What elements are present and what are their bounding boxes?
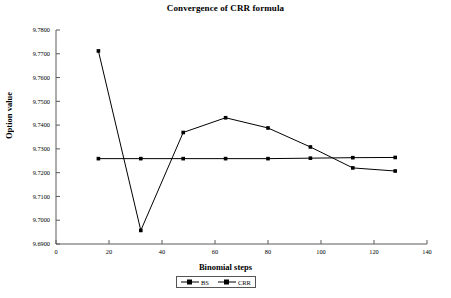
data-point-crr — [224, 116, 228, 120]
data-point-bs — [351, 156, 355, 160]
x-tick-label: 140 — [422, 248, 431, 255]
y-tick-label: 9.7200 — [33, 169, 50, 176]
x-tick-label: 80 — [265, 248, 271, 255]
x-tick-label: 20 — [106, 248, 112, 255]
series-line-crr — [98, 51, 395, 231]
chart-container: Convergence of CRR formula Option value … — [0, 0, 451, 298]
x-axis-title: Binomial steps — [0, 262, 451, 272]
data-point-crr — [309, 145, 313, 149]
x-tick-label: 120 — [369, 248, 378, 255]
y-tick-label: 9.7800 — [33, 26, 50, 33]
y-tick-label: 9.7600 — [33, 74, 50, 81]
y-tick-label: 9.7100 — [33, 193, 50, 200]
data-point-bs — [181, 157, 185, 161]
data-point-crr — [139, 229, 143, 233]
x-tick-label: 0 — [54, 248, 57, 255]
legend-item-bs: BS — [181, 278, 209, 286]
x-tick-label: 40 — [159, 248, 165, 255]
data-point-bs — [139, 157, 143, 161]
legend-line-marker-icon — [218, 278, 236, 286]
y-tick-label: 9.6900 — [33, 240, 50, 247]
data-point-bs — [309, 156, 313, 160]
legend-label-crr: CRR — [238, 279, 251, 286]
y-tick-label: 9.7700 — [33, 50, 50, 57]
data-point-crr — [393, 169, 397, 173]
y-tick-label: 9.7500 — [33, 98, 50, 105]
data-point-crr — [181, 131, 185, 135]
y-tick-label: 9.7000 — [33, 216, 50, 223]
data-point-crr — [266, 126, 270, 130]
data-point-bs — [393, 156, 397, 160]
plot-area: 9.69009.70009.71009.72009.73009.74009.75… — [0, 0, 451, 298]
data-point-bs — [224, 157, 228, 161]
data-point-bs — [97, 157, 101, 161]
legend-line-marker-icon — [181, 278, 199, 286]
x-tick-label: 100 — [316, 248, 325, 255]
series-line-bs — [98, 157, 395, 158]
data-point-bs — [266, 157, 270, 161]
y-tick-label: 9.7400 — [33, 121, 50, 128]
legend-label-bs: BS — [201, 279, 209, 286]
x-tick-label: 60 — [212, 248, 218, 255]
chart-legend: BS CRR — [176, 276, 256, 288]
data-point-crr — [351, 166, 355, 170]
data-point-crr — [97, 49, 101, 53]
y-tick-label: 9.7300 — [33, 145, 50, 152]
legend-item-crr: CRR — [218, 278, 251, 286]
